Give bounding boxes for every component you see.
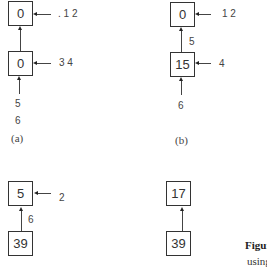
arrowhead-up-icon [17, 76, 21, 80]
node-c-top: 5 [8, 181, 33, 206]
node-b-bottom: 15 [170, 52, 195, 77]
incoming-label-a-1: 5 [15, 99, 21, 109]
pointer-label-a-bottom: 3 4 [59, 58, 73, 68]
arrowhead-up-icon [18, 26, 22, 30]
pointer-line-c-top [38, 193, 51, 194]
edge-a [20, 30, 21, 51]
incoming-edge-a [19, 80, 20, 94]
arrowhead-left-icon [33, 61, 37, 65]
pointer-label-a-top: . 1 2 [58, 9, 77, 19]
arrowhead-up-icon [19, 207, 23, 211]
pointer-line-b-top [199, 14, 211, 15]
incoming-label-b-1: 6 [178, 101, 184, 111]
pointer-label-b-bottom: 4 [219, 59, 225, 69]
arrowhead-up-icon [179, 77, 183, 81]
figure-caption-text: using [247, 256, 267, 267]
caption-a: (a) [11, 133, 23, 144]
edge-label-c: 6 [28, 215, 34, 225]
node-d-bottom: 39 [166, 231, 191, 256]
node-b-top: 0 [170, 2, 195, 27]
arrowhead-left-icon [195, 61, 199, 65]
node-a-top: 0 [8, 1, 33, 26]
pointer-label-c-top: 2 [59, 193, 65, 203]
edge-label-b: 5 [189, 37, 195, 47]
incoming-label-a-2: 6 [15, 116, 21, 126]
caption-b: (b) [175, 135, 188, 146]
arrowhead-left-icon [195, 12, 199, 16]
pointer-line-a-top [37, 14, 51, 15]
node-a-bottom: 0 [8, 51, 33, 76]
pointer-line-a-bottom [37, 63, 51, 64]
node-c-bottom: 39 [8, 231, 33, 256]
arrowhead-up-icon [179, 27, 183, 31]
arrowhead-left-icon [34, 191, 38, 195]
edge-d [182, 211, 183, 231]
node-d-top: 17 [166, 181, 191, 206]
pointer-label-b-top: 1 2 [222, 9, 236, 19]
arrowhead-left-icon [33, 12, 37, 16]
edge-c [21, 211, 22, 231]
arrowhead-up-icon [180, 207, 184, 211]
figure-caption-label: Figur [245, 240, 267, 251]
pointer-line-b-bottom [199, 63, 211, 64]
edge-b [181, 31, 182, 52]
incoming-edge-b [181, 81, 182, 95]
